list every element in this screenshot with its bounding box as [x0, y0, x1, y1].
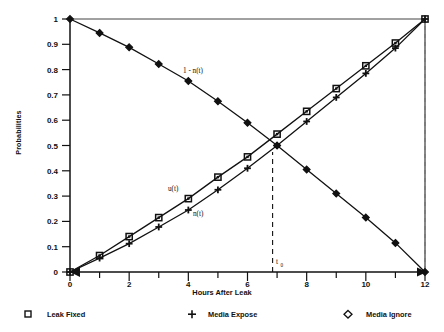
y-tick-label: 0.2 [47, 217, 59, 226]
plus-marker-icon [188, 310, 196, 318]
x-tick-label: 8 [304, 280, 309, 289]
diamond-marker-icon [155, 61, 162, 68]
series-media-expose [67, 16, 429, 276]
plot-axes [70, 19, 427, 272]
x-tick-label: 0 [68, 280, 73, 289]
legend-label-leak-fixed: Leak Fixed [47, 310, 86, 319]
y-tick-label: 0.5 [47, 142, 59, 151]
legend-label-media-ignore: Media Ignore [366, 310, 412, 319]
curve-label-media-ignore: 1 - n(t) [183, 67, 204, 75]
square-marker-core-icon [305, 110, 307, 112]
square-marker-core-icon [394, 42, 396, 44]
series-leak-fixed [67, 16, 428, 275]
square-marker-core-icon [365, 65, 367, 67]
series-line [70, 19, 425, 272]
y-tick-label: 0 [54, 268, 59, 277]
x-tick-label: 10 [361, 280, 370, 289]
diamond-marker-icon [96, 30, 103, 37]
y-tick-label: 0.9 [47, 40, 59, 49]
y-tick-label: 0.8 [47, 66, 59, 75]
square-marker-core-icon [276, 133, 278, 135]
legend-item-media-expose: Media Expose [188, 310, 257, 319]
series-media-ignore [67, 16, 429, 276]
diamond-marker-icon [67, 16, 74, 23]
square-marker-core-icon [217, 176, 219, 178]
y-tick-label: 0.1 [47, 243, 59, 252]
y-tick-label: 0.3 [47, 192, 59, 201]
square-marker-core-icon [335, 87, 337, 89]
square-marker-core-icon [246, 156, 248, 158]
probabilities-line-chart: 00.10.20.30.40.50.60.70.80.91 024681012 … [0, 0, 444, 332]
t-zero-subscript: 0 [281, 262, 284, 268]
series-line [70, 19, 425, 272]
y-axis-ticks: 00.10.20.30.40.50.60.70.80.91 [47, 15, 70, 277]
x-tick-label: 2 [127, 280, 132, 289]
diamond-marker-icon [126, 44, 133, 51]
chart-figure-root: Probabilities 00.10.20.30.40.50.60.70.80… [0, 0, 444, 332]
reference-lines [273, 22, 425, 272]
y-tick-label: 1 [54, 15, 59, 24]
series-line [70, 19, 425, 272]
legend-item-media-ignore: Media Ignore [344, 310, 412, 319]
t-zero-label: t [276, 258, 278, 266]
data-series-group [67, 16, 429, 276]
x-tick-label: 12 [421, 280, 430, 289]
y-tick-label: 0.6 [47, 116, 59, 125]
legend-label-media-expose: Media Expose [208, 310, 257, 319]
chart-legend: Leak Fixed Media Expose Media Ignore [25, 310, 412, 319]
y-tick-label: 0.7 [47, 91, 59, 100]
curve-label-leak-fixed: u(t) [168, 185, 179, 193]
y-tick-label: 0.4 [47, 167, 59, 176]
diamond-marker-icon [344, 311, 352, 319]
legend-item-leak-fixed: Leak Fixed [25, 310, 86, 319]
curve-label-media-expose: n(t) [193, 210, 204, 218]
square-marker-icon [25, 311, 31, 317]
x-axis-ticks: 024681012 [68, 272, 430, 289]
square-marker-core-icon [187, 197, 189, 199]
square-marker-core-icon [158, 216, 160, 218]
square-marker-core-icon [128, 235, 130, 237]
x-axis-title: Hours After Leak [192, 288, 252, 297]
x-tick-label: 4 [186, 280, 191, 289]
